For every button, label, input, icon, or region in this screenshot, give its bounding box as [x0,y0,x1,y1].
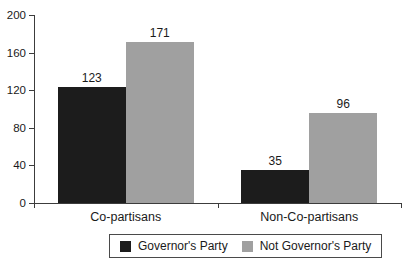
category-label: Co-partisans [56,210,196,224]
y-tick-label: 80 [0,122,26,134]
legend-swatch [242,241,253,252]
legend-item: Not Governor's Party [242,239,372,253]
legend-label: Governor's Party [138,239,228,253]
y-tick-label: 160 [0,47,26,59]
y-tick-mark [29,128,34,129]
bar [241,170,309,203]
bar-value-label: 96 [323,97,363,111]
y-tick-mark [29,90,34,91]
chart-legend: Governor's PartyNot Governor's Party [109,234,382,258]
x-tick-mark [34,204,35,208]
legend-item: Governor's Party [120,239,228,253]
bar-value-label: 123 [72,71,112,85]
bar [309,113,377,203]
y-tick-label: 120 [0,84,26,96]
y-tick-mark [29,165,34,166]
category-label: Non-Co-partisans [239,210,379,224]
legend-swatch [120,241,131,252]
bar-chart-figure: Governor's PartyNot Governor's Party 040… [0,0,416,265]
x-tick-mark [218,204,219,208]
y-tick-label: 0 [0,197,26,209]
x-tick-mark [401,204,402,208]
bar-value-label: 171 [140,26,180,40]
bar-value-label: 35 [255,154,295,168]
legend-label: Not Governor's Party [260,239,372,253]
y-tick-mark [29,15,34,16]
bar [58,87,126,203]
y-tick-label: 200 [0,9,26,21]
y-tick-label: 40 [0,159,26,171]
bar [126,42,194,203]
y-tick-mark [29,53,34,54]
y-axis [34,15,35,203]
